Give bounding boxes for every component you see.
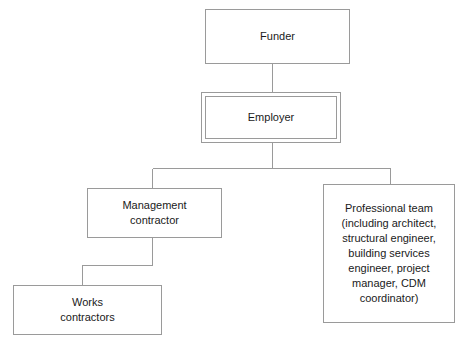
node-funder: Funder — [205, 9, 350, 64]
node-works-contractors-label: Works contractors — [56, 295, 118, 325]
node-management-contractor-label: Management contractor — [118, 198, 190, 228]
node-works-contractors: Works contractors — [13, 285, 162, 335]
node-professional-team-label: Professional team (including architect, … — [338, 201, 441, 306]
node-employer: Employer — [201, 92, 341, 143]
node-employer-inner-frame: Employer — [205, 96, 337, 139]
edge-employer-to-children — [153, 143, 391, 188]
edge-management-contractor-to-works-contractors — [83, 238, 153, 285]
org-chart-diagram: Funder Employer Management contractor Pr… — [0, 0, 462, 341]
node-funder-label: Funder — [256, 29, 299, 44]
node-professional-team: Professional team (including architect, … — [323, 184, 455, 323]
node-management-contractor: Management contractor — [87, 188, 222, 238]
node-employer-label: Employer — [244, 110, 298, 125]
